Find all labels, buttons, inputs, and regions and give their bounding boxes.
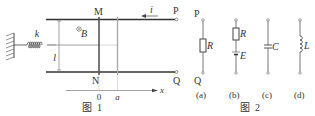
resistor-icon — [233, 28, 239, 40]
fixed-wall-icon — [6, 33, 14, 60]
circuit-b: R E (b) — [229, 19, 246, 100]
label-P: P — [194, 8, 200, 19]
circuit-d: L (d) — [294, 19, 310, 100]
circuit-a: P R Q (a) — [194, 8, 213, 100]
figure-2-caption: 图 2 — [240, 102, 260, 113]
label-P: P — [173, 5, 179, 16]
figure-2: P R Q (a) R E (b) — [194, 8, 310, 113]
spring-icon — [14, 42, 56, 48]
x-axis — [66, 89, 158, 93]
figure-1: k l M N B — [6, 4, 181, 113]
axis-x-label: x — [159, 85, 164, 95]
circuit-d-label: (d) — [294, 90, 305, 100]
label-N: N — [92, 75, 99, 86]
resistor-label: R — [239, 28, 246, 39]
inductor-icon — [300, 36, 302, 52]
resistor-icon — [200, 39, 206, 52]
capacitor-label: C — [272, 41, 279, 52]
label-Q: Q — [173, 75, 181, 86]
emf-label: E — [239, 50, 246, 61]
circuit-b-label: (b) — [229, 90, 240, 100]
circuit-c: C (c) — [262, 19, 279, 100]
terminal-P — [175, 18, 178, 21]
axis-origin-label: 0 — [97, 92, 102, 102]
field-label-B: B — [81, 28, 87, 39]
label-Q: Q — [194, 75, 202, 86]
spring-constant-label: k — [35, 28, 40, 39]
circuit-a-label: (a) — [196, 90, 206, 100]
label-M: M — [94, 6, 103, 17]
rail-spacing-label: l — [53, 52, 56, 63]
terminal-Q — [175, 71, 178, 74]
battery-icon — [232, 52, 240, 55]
rail-spacing-marker — [57, 21, 61, 70]
circuit-c-label: (c) — [262, 90, 272, 100]
axis-a-label: a — [115, 92, 120, 102]
resistor-label: R — [206, 40, 213, 51]
current-label-i: i — [150, 4, 153, 15]
physics-diagram: k l M N B — [0, 0, 315, 116]
figure-1-caption: 图 1 — [82, 102, 102, 113]
capacitor-icon — [264, 45, 272, 48]
inductor-label: L — [303, 40, 310, 51]
